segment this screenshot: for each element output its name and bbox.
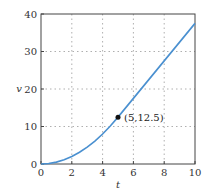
x-tick-label: 10	[189, 167, 202, 178]
x-axis-label: t	[116, 179, 121, 190]
grid-lines	[41, 14, 195, 164]
x-tick-label: 0	[38, 167, 44, 178]
annotation-label: (5,12.5)	[124, 112, 164, 123]
y-axis-label: v	[16, 83, 22, 94]
y-tick-label: 0	[31, 159, 37, 170]
x-tick-label: 4	[99, 167, 105, 178]
series-line	[41, 23, 195, 164]
annotation-point	[116, 115, 121, 120]
y-tick-label: 10	[24, 121, 37, 132]
x-tick-label: 2	[69, 167, 75, 178]
y-tick-label: 30	[24, 46, 37, 57]
y-tick-label: 20	[24, 84, 37, 95]
y-tick-label: 40	[24, 9, 37, 20]
x-tick-label: 8	[161, 167, 167, 178]
chart: 0246810 010203040 (5,12.5) t v	[0, 0, 206, 196]
x-tick-label: 6	[130, 167, 136, 178]
